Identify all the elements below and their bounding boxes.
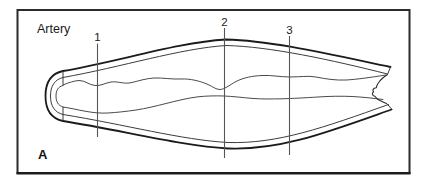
figure-border [18,10,410,173]
lumen-cap-left [56,86,63,108]
section-label-2: 2 [221,16,227,28]
artery-inner-wall-bottom [63,105,389,143]
section-label-3: 3 [286,24,292,36]
right-cut-face-top [388,67,391,75]
figure-title: Artery [37,22,71,36]
section-label-1: 1 [94,31,100,43]
artery-left-cap-inner [51,78,64,115]
figure-panel: 1 2 3 Artery A [0,0,422,185]
right-cut-face-bottom [387,104,392,110]
artery-outer-wall-top [63,40,391,72]
artery-diagram: 1 2 3 Artery A [0,0,422,185]
panel-letter: A [38,147,48,162]
lumen-line-lower [63,96,383,113]
